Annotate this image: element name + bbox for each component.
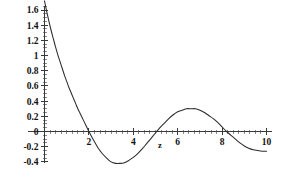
y-axis-tick-label: 0.6: [27, 81, 39, 91]
data-curve-damped-oscillation: [45, 1, 267, 164]
y-axis-tick-label: 1.6: [27, 5, 39, 15]
plot-area: 246810 -0.4-0.200.20.40.60.811.21.41.6 z: [0, 0, 281, 175]
x-axis-tick-label: 2: [87, 137, 92, 147]
x-axis-tick-label: 4: [131, 137, 136, 147]
y-axis-tick-label: -0.2: [23, 142, 38, 152]
y-axis-tick-labels: -0.4-0.200.20.40.60.811.21.41.6: [23, 5, 38, 167]
y-axis-tick-label: 1: [34, 51, 39, 61]
y-axis-tick-label: 0: [34, 127, 39, 137]
x-axis-label: z: [158, 140, 162, 150]
y-axis-tick-label: 0.4: [27, 97, 39, 107]
y-axis-tick-label: 1.4: [27, 21, 39, 31]
x-axis-tick-label: 10: [262, 137, 272, 147]
y-axis-tick-label: 1.2: [27, 36, 39, 46]
y-axis-tick-label: 0.2: [27, 112, 39, 122]
x-axis-tick-label: 8: [220, 137, 225, 147]
x-axis-tick-label: 6: [175, 137, 180, 147]
y-axis-tick-label: 0.8: [27, 66, 39, 76]
chart-page: 246810 -0.4-0.200.20.40.60.811.21.41.6 z: [0, 0, 281, 175]
y-axis-tick-label: -0.4: [23, 157, 38, 167]
